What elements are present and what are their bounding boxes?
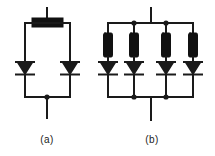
circuit-b-bottom-junction-dot-2	[131, 94, 136, 99]
circuit-diagram: (a) (b)	[0, 0, 215, 156]
circuit-b-top-junction-dot-3	[163, 20, 168, 25]
circuit-b-bottom-junction-dot-3	[163, 94, 168, 99]
caption-a: (a)	[40, 134, 53, 145]
circuit-b-resistor-4	[189, 33, 198, 57]
circuit-b-resistor-3	[162, 33, 171, 57]
circuit-a-bottom-junction-dot	[44, 94, 49, 99]
circuit-b-resistor-1	[104, 33, 113, 57]
figure-root: (a) (b)	[0, 0, 215, 156]
circuit-b-top-junction-dot-2	[131, 20, 136, 25]
caption-b: (b)	[145, 134, 158, 145]
circuit-b-resistor-2	[130, 33, 139, 57]
